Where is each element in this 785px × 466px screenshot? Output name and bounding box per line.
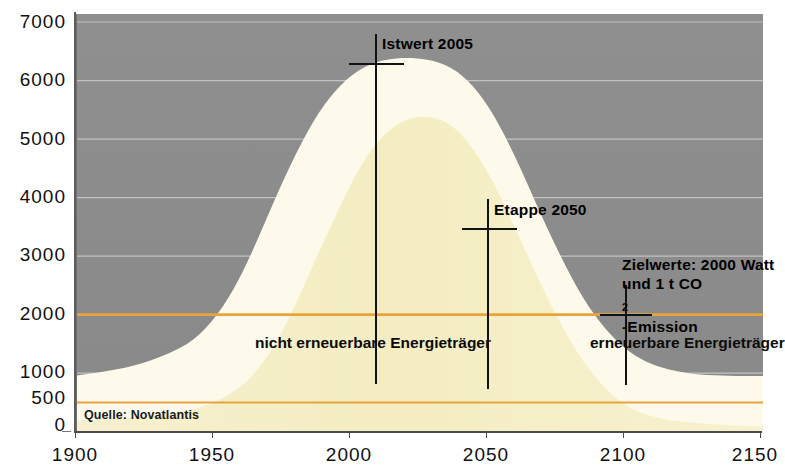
y-tick-5000: 5000	[0, 128, 66, 150]
x-tick-1950: 1950	[189, 444, 235, 466]
source-note: Quelle: Novatlantis	[84, 408, 199, 422]
y-tick-4000: 4000	[0, 186, 66, 208]
y-tick-500: 500	[0, 387, 66, 409]
y-tick-7000: 7000	[0, 11, 66, 33]
x-tick-2100: 2100	[600, 444, 646, 466]
y-tick-6000: 6000	[0, 69, 66, 91]
y-axis-line	[74, 12, 76, 433]
istwert-marker-cross	[349, 63, 404, 65]
y-axis-labels: 7000 6000 5000 4000 3000 2000 1000 500 0	[0, 0, 66, 466]
x-axis-line	[74, 431, 762, 433]
y-tick-3000: 3000	[0, 244, 66, 266]
etappe-label: Etappe 2050	[494, 200, 587, 219]
x-tick-2000: 2000	[326, 444, 372, 466]
label-nicht-erneuerbare: nicht erneuerbare Energieträger	[255, 333, 491, 352]
co2-subscript: 2	[622, 301, 628, 313]
zielwerte-line2-pre: und 1 t CO	[622, 274, 774, 293]
y-tick-mark-0	[62, 431, 71, 432]
zielwerte-label: Zielwerte: 2000 Watt und 1 t CO2-Emissio…	[622, 255, 774, 336]
x-tick-2050: 2050	[463, 444, 509, 466]
istwert-label: Istwert 2005	[382, 34, 473, 53]
x-tick-1900: 1900	[52, 444, 98, 466]
x-axis-labels: 1900 1950 2000 2050 2100 2150	[0, 436, 776, 466]
y-tick-1000: 1000	[0, 361, 66, 383]
istwert-marker-line	[375, 34, 377, 384]
chart-svg	[77, 14, 763, 431]
y-tick-0: 0	[0, 414, 66, 436]
zielwerte-label-line1: Zielwerte: 2000 Watt	[622, 255, 774, 274]
etappe-marker-cross	[462, 228, 517, 230]
x-tick-2150: 2150	[732, 444, 778, 466]
label-erneuerbare: erneuerbare Energieträger	[590, 333, 785, 352]
y-tick-2000: 2000	[0, 303, 66, 325]
plot-area	[75, 14, 763, 431]
zielwerte-label-line2: und 1 t CO2-Emission	[622, 274, 774, 336]
